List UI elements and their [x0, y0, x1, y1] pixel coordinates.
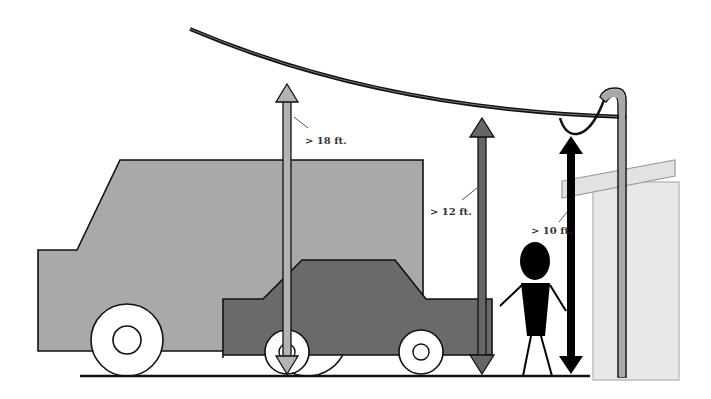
leader-line-12ft	[462, 188, 477, 200]
person	[500, 242, 566, 376]
person-torso	[521, 283, 550, 336]
clearance-arrow-10ft	[559, 136, 583, 374]
label-12ft: > 12 ft.	[430, 206, 472, 217]
overhead-wire	[190, 29, 626, 117]
label-18ft: > 18 ft.	[305, 135, 347, 146]
leader-line-10ft	[559, 212, 567, 222]
person-arm-left	[500, 285, 522, 306]
person-arm-right	[550, 285, 566, 311]
house-wall	[593, 182, 679, 380]
label-10ft: > 10 ft.	[531, 225, 573, 236]
person-leg-left	[523, 336, 531, 376]
person-head	[520, 242, 550, 280]
car-hubcap-rear	[413, 344, 429, 360]
clearance-diagram: > 18 ft. > 12 ft. > 10 ft.	[0, 0, 711, 399]
truck-hubcap	[113, 326, 141, 354]
person-leg-right	[541, 336, 552, 376]
overhead-wire-highlight	[190, 29, 626, 117]
leader-line-18ft	[294, 117, 308, 128]
